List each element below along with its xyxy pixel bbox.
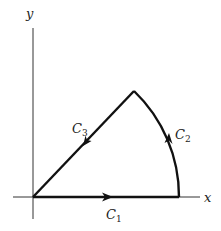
x-axis-label: x <box>204 190 212 205</box>
curve-c2 <box>134 91 179 197</box>
label-c2: C2 <box>175 127 191 144</box>
y-axis-label: y <box>25 6 34 21</box>
contour-diagram: y x C1 C2 C3 <box>0 0 221 231</box>
label-c3: C3 <box>72 121 88 138</box>
label-c1: C1 <box>106 207 122 224</box>
